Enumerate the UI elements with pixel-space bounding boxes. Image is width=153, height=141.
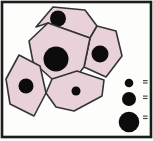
- key-circle-small-label-mark: [143, 80, 148, 81]
- key-circle-large: [119, 112, 140, 133]
- key-circle-large-label-mark: [143, 116, 148, 117]
- key-circle-large-label-mark: [143, 118, 148, 119]
- key-circle-medium: [122, 92, 136, 106]
- right-cell-nucleus: [92, 46, 109, 63]
- key-circle-medium-label-mark: [143, 98, 148, 99]
- cell-diagram: [0, 0, 153, 141]
- bottom-cell-nucleus: [72, 87, 81, 96]
- key-circle-small: [125, 79, 134, 88]
- left-cell-nucleus: [19, 79, 34, 94]
- figure-canvas: [0, 0, 153, 141]
- center-cell-nucleus: [44, 47, 69, 72]
- key-circle-medium-label-mark: [143, 96, 148, 97]
- key-circle-small-label-mark: [143, 82, 148, 83]
